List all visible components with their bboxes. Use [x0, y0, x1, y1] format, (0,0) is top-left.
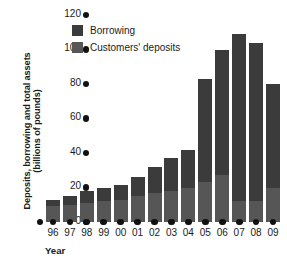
x-tick-dot: [100, 219, 107, 226]
bar-segment-borrowing: [97, 188, 111, 201]
bar-segment-borrowing: [114, 185, 128, 200]
x-axis-ticks: [44, 222, 282, 223]
bar-column: [80, 191, 94, 222]
legend-label: Borrowing: [90, 25, 135, 36]
x-tick-dot: [219, 219, 226, 226]
x-tick-dot: [67, 219, 74, 226]
y-axis-title-line1: Deposits, borrowing and total assets: [22, 52, 32, 209]
bar-segment-borrowing: [266, 84, 280, 188]
x-axis-label: 07: [232, 227, 246, 241]
legend-label: Customers' deposits: [90, 42, 180, 53]
x-tick-dot: [83, 219, 90, 226]
y-axis-title-line2: (billions of pounds): [32, 36, 42, 226]
bar-segment-borrowing: [80, 191, 94, 203]
bar-column: [249, 43, 263, 222]
x-axis-label: 99: [97, 227, 111, 241]
x-tick-dot: [151, 219, 158, 226]
bar-column: [181, 150, 195, 222]
x-tick-dot: [185, 219, 192, 226]
legend-swatch: [72, 25, 83, 36]
stacked-bar-chart: Deposits, borrowing and total assets (bi…: [0, 0, 287, 267]
x-tick-dot: [236, 219, 243, 226]
bar-segment-customers-deposits: [215, 175, 229, 222]
bar-column: [164, 158, 178, 222]
x-tick-dot: [253, 219, 260, 226]
x-axis-label: 05: [198, 227, 212, 241]
x-axis-label: 06: [215, 227, 229, 241]
bar-segment-customers-deposits: [198, 182, 212, 222]
legend-swatch: [72, 42, 83, 53]
x-tick-dot: [202, 219, 209, 226]
y-axis-title: Deposits, borrowing and total assets (bi…: [0, 36, 24, 226]
bar-segment-borrowing: [232, 34, 246, 201]
x-axis-labels: 9697989900010203040506070809: [44, 227, 282, 241]
x-axis-label: 03: [164, 227, 178, 241]
bar-column: [232, 34, 246, 222]
bar-segment-borrowing: [148, 167, 162, 193]
bar-segment-customers-deposits: [266, 188, 280, 223]
bar-segment-borrowing: [198, 79, 212, 183]
bar-segment-borrowing: [249, 43, 263, 202]
bar-segment-borrowing: [131, 177, 145, 196]
bar-segment-borrowing: [181, 150, 195, 188]
legend-item: Customers' deposits: [72, 42, 180, 53]
bar-segment-customers-deposits: [181, 188, 195, 223]
bar-column: [114, 185, 128, 222]
x-tick-dot: [50, 219, 57, 226]
x-axis-label: 08: [249, 227, 263, 241]
bar-column: [215, 50, 229, 222]
bar-segment-borrowing: [215, 50, 229, 176]
bar-segment-borrowing: [164, 158, 178, 191]
bar-column: [97, 188, 111, 222]
x-axis-label: 09: [266, 227, 280, 241]
x-axis-label: 00: [114, 227, 128, 241]
x-tick-dot: [117, 219, 124, 226]
bar-segment-borrowing: [46, 200, 60, 207]
chart-legend: BorrowingCustomers' deposits: [72, 25, 180, 59]
x-axis-label: 04: [181, 227, 195, 241]
x-axis-label: 02: [148, 227, 162, 241]
legend-item: Borrowing: [72, 25, 180, 36]
bar-segment-customers-deposits: [148, 193, 162, 222]
bar-segment-customers-deposits: [164, 191, 178, 222]
x-axis-label: 01: [131, 227, 145, 241]
x-axis-title: Year: [45, 245, 65, 256]
x-tick-dot: [168, 219, 175, 226]
bar-column: [266, 84, 280, 222]
x-axis-label: 97: [63, 227, 77, 241]
x-tick-dot: [134, 219, 141, 226]
x-tick-dot: [270, 219, 277, 226]
bar-column: [131, 177, 145, 222]
x-axis-label: 98: [80, 227, 94, 241]
bar-column: [148, 167, 162, 222]
x-axis-label: 96: [46, 227, 60, 241]
bar-segment-borrowing: [63, 196, 77, 205]
bar-column: [198, 79, 212, 222]
